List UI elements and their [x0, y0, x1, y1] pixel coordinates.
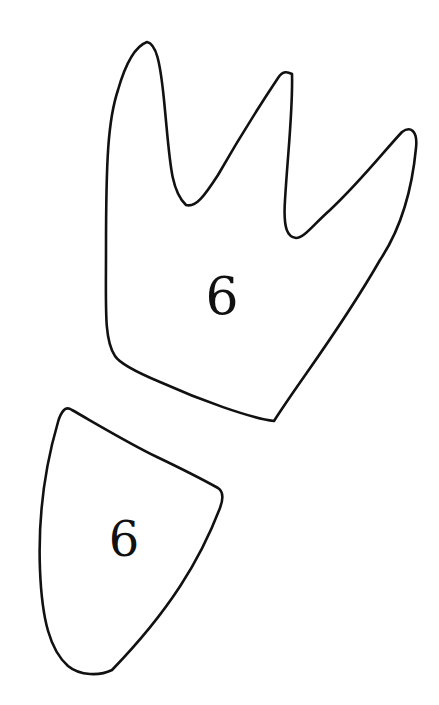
- crown-outline: [106, 42, 416, 421]
- shield-shape: 6: [40, 409, 223, 675]
- drawing-canvas: 6 6: [0, 0, 439, 705]
- shield-number-label: 6: [109, 511, 140, 567]
- crown-shape: 6: [106, 42, 416, 421]
- crown-number-label: 6: [205, 266, 238, 326]
